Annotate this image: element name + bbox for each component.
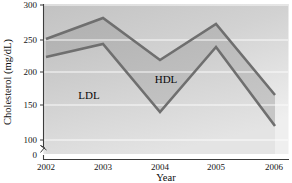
chart-canvas: 300 250 200 150 100 0 2002 2003 2004 200… (0, 0, 292, 183)
series-label-ldl: LDL (78, 89, 100, 101)
y-axis-title: Cholesterol (mg/dL) (2, 38, 14, 125)
ytick-label-0: 0 (33, 150, 38, 160)
xtick-label-2006: 2006 (265, 162, 284, 172)
xtick-label-2003: 2003 (94, 162, 113, 172)
ytick-label-200: 200 (24, 67, 38, 77)
xtick-label-2002: 2002 (37, 162, 55, 172)
ytick-label-300: 300 (24, 0, 38, 10)
ytick-label-100: 100 (24, 135, 38, 145)
ytick-label-250: 250 (24, 35, 38, 45)
xtick-label-2004: 2004 (151, 162, 170, 172)
cholesterol-chart: 300 250 200 150 100 0 2002 2003 2004 200… (0, 0, 292, 183)
x-axis-title: Year (156, 172, 176, 183)
xtick-label-2005: 2005 (207, 162, 226, 172)
ytick-label-150: 150 (24, 100, 38, 110)
series-label-hdl: HDL (155, 73, 178, 85)
